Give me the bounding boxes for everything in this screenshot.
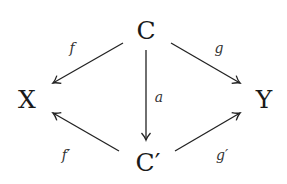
node-y: Y: [256, 87, 273, 112]
arrow-f-prime: [53, 113, 119, 151]
label-f-prime: f′: [62, 148, 70, 162]
commutative-diagram: C X Y C′ f g a f′ g′: [0, 0, 287, 184]
node-x: X: [18, 87, 36, 112]
label-g: g: [215, 41, 224, 55]
arrow-f: [53, 43, 123, 83]
node-c-prime: C′: [136, 150, 161, 175]
arrow-g: [171, 43, 240, 83]
label-f: f: [69, 41, 74, 55]
label-a: a: [155, 90, 163, 104]
arrow-g-prime: [175, 113, 240, 151]
label-g-prime: g′: [216, 148, 228, 162]
node-c: C: [136, 18, 155, 43]
